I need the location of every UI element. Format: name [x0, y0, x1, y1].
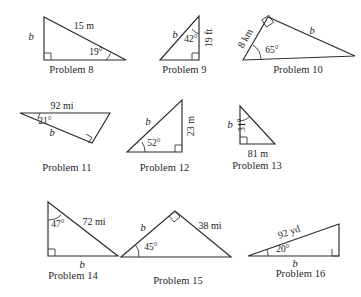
- problem-figure-11: 92 mi 21° b Problem 11: [12, 98, 122, 174]
- side-label-measure: 72 mi: [82, 216, 105, 227]
- angle-label: 20°: [276, 244, 290, 254]
- angle-arc: [253, 45, 261, 60]
- problem-figure-13: b 31° 81 m Problem 13: [212, 98, 302, 172]
- problem-caption-15: Problem 15: [113, 275, 243, 287]
- triangle-diagram-13: b 31° 81 m: [212, 98, 302, 160]
- triangle-diagram-16: 92 yd 20° b: [243, 212, 358, 268]
- side-label-measure: 81 m: [248, 148, 269, 159]
- side-label-b: b: [172, 29, 177, 40]
- problem-caption-16: Problem 16: [243, 268, 358, 280]
- angle-label: 45°: [144, 242, 158, 252]
- triangle-outline: [48, 202, 118, 256]
- right-angle-marker: [332, 249, 339, 256]
- problem-caption-8: Problem 8: [14, 64, 129, 76]
- side-label-b: b: [309, 25, 314, 36]
- problem-caption-9: Problem 9: [142, 64, 227, 76]
- angle-label: 47°: [51, 219, 65, 229]
- angle-label: 65°: [265, 45, 279, 55]
- problem-caption-12: Problem 12: [112, 162, 217, 174]
- side-label-b: b: [49, 127, 54, 138]
- problem-figure-12: b 52° 23 m Problem 12: [112, 94, 217, 174]
- side-label-b: b: [145, 116, 150, 127]
- side-label-b: b: [227, 119, 232, 130]
- problem-figure-15: b 45° 38 mi Problem 15: [113, 203, 243, 287]
- side-label-b: b: [79, 259, 84, 268]
- side-label-measure: 15 m: [74, 20, 95, 31]
- angle-label: 19°: [89, 47, 103, 57]
- problem-figure-14: 47° 72 mi b Problem 14: [18, 196, 128, 282]
- triangle-diagram-8: b 15 m 19°: [14, 4, 129, 64]
- triangle-diagram-9: b 42° 19 ft: [142, 4, 227, 64]
- angle-label: 21°: [38, 116, 52, 126]
- angle-arc: [106, 54, 111, 61]
- triangle-outline: [20, 113, 110, 143]
- triangle-outline: [121, 211, 231, 257]
- triangle-diagram-11: 92 mi 21° b: [12, 98, 122, 156]
- right-angle-marker: [192, 53, 199, 60]
- problem-figure-16: 92 yd 20° b Problem 16: [243, 212, 358, 280]
- side-label-b: b: [28, 31, 33, 42]
- angle-arc: [135, 244, 139, 257]
- angle-label: 31°: [237, 118, 247, 132]
- side-label-measure: 8 km: [237, 27, 255, 50]
- angle-arc: [267, 249, 268, 256]
- side-label-b: b: [292, 258, 297, 268]
- problem-caption-10: Problem 10: [237, 64, 359, 76]
- triangle-diagram-15: b 45° 38 mi: [113, 203, 243, 265]
- triangle-diagram-14: 47° 72 mi b: [18, 196, 128, 268]
- problem-caption-13: Problem 13: [212, 160, 302, 172]
- side-label-measure: 92 yd: [276, 223, 301, 241]
- side-label-measure: 23 m: [185, 116, 196, 137]
- right-angle-marker: [175, 145, 182, 152]
- side-label-measure: 19 ft: [203, 28, 214, 47]
- side-label-measure: 38 mi: [198, 220, 221, 231]
- angle-label: 42°: [184, 34, 198, 44]
- angle-label: 52°: [147, 138, 161, 148]
- side-label-measure: 92 mi: [50, 100, 73, 111]
- problem-caption-14: Problem 14: [18, 270, 128, 282]
- worksheet-page: b 15 m 19° Problem 8 b 42° 19 ft Problem…: [0, 0, 361, 297]
- problem-figure-9: b 42° 19 ft Problem 9: [142, 4, 227, 76]
- problem-figure-8: b 15 m 19° Problem 8: [14, 4, 129, 76]
- right-angle-marker: [240, 137, 247, 144]
- side-label-b: b: [140, 222, 145, 233]
- angle-arc: [142, 142, 145, 152]
- right-angle-marker: [86, 134, 92, 143]
- triangle-diagram-10: 8 km 65° b: [237, 4, 359, 64]
- right-angle-marker: [48, 249, 55, 256]
- problem-caption-11: Problem 11: [12, 162, 122, 174]
- triangle-diagram-12: b 52° 23 m: [112, 94, 217, 162]
- right-angle-marker: [44, 53, 51, 60]
- problem-figure-10: 8 km 65° b Problem 10: [237, 4, 359, 76]
